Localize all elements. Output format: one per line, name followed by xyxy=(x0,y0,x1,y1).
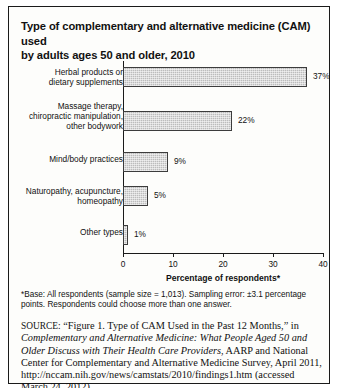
category-label-line: Naturopathy, acupuncture, xyxy=(26,186,123,196)
source-text-part-1: “Figure 1. Type of CAM Used in the Past … xyxy=(61,320,299,331)
bar-track: 37% xyxy=(123,61,331,95)
bar-value-label: 5% xyxy=(154,190,166,200)
footnote: *Base: All respondents (sample size = 1,… xyxy=(21,290,321,311)
bar[interactable] xyxy=(123,111,232,131)
category-label-line: Massage therapy, xyxy=(58,101,123,111)
bar-track: 5% xyxy=(123,185,331,219)
bar[interactable] xyxy=(123,152,168,172)
x-axis-tick xyxy=(273,253,274,257)
x-axis-tick-label: 30 xyxy=(268,259,277,269)
x-axis-tick-label: 0 xyxy=(121,259,126,269)
bar[interactable] xyxy=(123,67,307,87)
category-label: Massage therapy, chiropractic manipulati… xyxy=(0,101,123,132)
bar-row: Naturopathy, acupuncture, homeopathy 5% xyxy=(9,185,331,219)
bar-track: 9% xyxy=(123,149,331,183)
x-axis-tick xyxy=(223,253,224,257)
plot-area: Herbal products or dietary supplements 3… xyxy=(9,61,331,253)
category-label-line: chiropractic manipulation, xyxy=(29,111,123,121)
source-label: SOURCE: xyxy=(21,321,61,331)
category-label: Naturopathy, acupuncture, homeopathy xyxy=(0,186,123,206)
x-axis-tick-label: 40 xyxy=(318,259,327,269)
bar-row: Herbal products or dietary supplements 3… xyxy=(9,61,331,95)
bar-value-label: 9% xyxy=(174,156,186,166)
x-axis-tick-label: 20 xyxy=(218,259,227,269)
category-label-line: other bodywork xyxy=(66,121,123,131)
bar-value-label: 22% xyxy=(238,115,255,125)
category-label: Other types xyxy=(0,227,123,237)
bar-row: Other types 1% xyxy=(9,223,331,257)
bar[interactable] xyxy=(123,225,128,245)
x-axis-tick xyxy=(123,253,124,257)
category-label: Herbal products or dietary supplements xyxy=(0,67,123,87)
chart-title: Type of complementary and alternative me… xyxy=(21,19,321,63)
source-note: SOURCE: “Figure 1. Type of CAM Used in t… xyxy=(21,320,323,388)
category-label-line: Other types xyxy=(80,227,123,237)
bar-track: 22% xyxy=(123,101,331,143)
bar[interactable] xyxy=(123,186,148,206)
category-label: Mind/body practices xyxy=(0,154,123,164)
x-axis-title: Percentage of respondents* xyxy=(123,273,323,283)
chart-title-line-2: by adults ages 50 and older, 2010 xyxy=(21,49,195,61)
bar-row: Mind/body practices 9% xyxy=(9,149,331,183)
category-label-line: dietary supplements xyxy=(49,77,123,87)
chart-title-line-1: Type of complementary and alternative me… xyxy=(21,20,310,47)
bar-track: 1% xyxy=(123,223,331,257)
x-axis-tick xyxy=(173,253,174,257)
category-label-line: Herbal products or xyxy=(55,67,123,77)
figure-frame: Type of complementary and alternative me… xyxy=(8,6,330,384)
bar-value-label: 1% xyxy=(134,229,146,239)
category-label-line: Mind/body practices xyxy=(49,154,123,164)
bar-value-label: 37% xyxy=(313,71,330,81)
x-axis-tick-label: 10 xyxy=(168,259,177,269)
x-axis-tick xyxy=(323,253,324,257)
bar-row: Massage therapy, chiropractic manipulati… xyxy=(9,101,331,143)
category-label-line: homeopathy xyxy=(77,196,123,206)
